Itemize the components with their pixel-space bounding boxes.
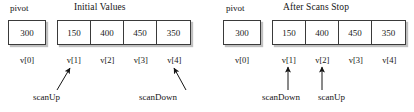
array-cell: 350 bbox=[157, 21, 190, 44]
pivot-box-left: 300 bbox=[8, 20, 46, 45]
array-cell-value: 350 bbox=[167, 28, 181, 38]
array-cell: 350 bbox=[372, 21, 405, 44]
array-cell: 450 bbox=[339, 21, 372, 44]
pivot-value-right: 300 bbox=[235, 28, 249, 38]
arrow-scandown-left bbox=[174, 68, 186, 90]
index-label-v2-right: v[2] bbox=[306, 55, 340, 65]
pivot-box-right: 300 bbox=[223, 20, 261, 45]
annotation-scandown-right: scanDown bbox=[262, 92, 300, 102]
annotation-scanup-right: scanUp bbox=[318, 92, 345, 102]
index-label-v1-right: v[1] bbox=[272, 55, 306, 65]
array-cell-value: 400 bbox=[315, 28, 329, 38]
index-label-v2-left: v[2] bbox=[91, 55, 125, 65]
array-cell-value: 450 bbox=[348, 28, 362, 38]
array-cell-value: 150 bbox=[67, 28, 81, 38]
index-label-v0-right: v[0] bbox=[223, 55, 261, 65]
index-label-v3-left: v[3] bbox=[124, 55, 158, 65]
array-cell-value: 350 bbox=[382, 28, 396, 38]
index-label-v1-left: v[1] bbox=[57, 55, 91, 65]
array-cell: 450 bbox=[124, 21, 157, 44]
annotation-scandown-left: scanDown bbox=[139, 92, 177, 102]
panel-title-initial: Initial Values bbox=[74, 2, 126, 12]
pivot-value-left: 300 bbox=[20, 28, 34, 38]
annotation-scanup-left: scanUp bbox=[33, 92, 60, 102]
diagram-canvas: pivot Initial Values 300 150 400 450 350… bbox=[0, 0, 414, 112]
array-cell-value: 150 bbox=[282, 28, 296, 38]
array-cell: 150 bbox=[58, 21, 91, 44]
array-cell-value: 400 bbox=[100, 28, 114, 38]
index-label-v4-right: v[4] bbox=[373, 55, 407, 65]
array-cell-value: 450 bbox=[133, 28, 147, 38]
pivot-label-right: pivot bbox=[226, 3, 245, 13]
array-cell: 150 bbox=[273, 21, 306, 44]
index-label-v3-right: v[3] bbox=[339, 55, 373, 65]
array-cell: 400 bbox=[306, 21, 339, 44]
array-after: 150 400 450 350 bbox=[272, 20, 406, 45]
index-label-v0-left: v[0] bbox=[8, 55, 46, 65]
array-cell: 400 bbox=[91, 21, 124, 44]
arrow-scanup-left bbox=[57, 68, 70, 90]
index-label-v4-left: v[4] bbox=[158, 55, 192, 65]
array-initial: 150 400 450 350 bbox=[57, 20, 191, 45]
pivot-label-left: pivot bbox=[10, 3, 29, 13]
panel-title-after: After Scans Stop bbox=[283, 2, 349, 12]
